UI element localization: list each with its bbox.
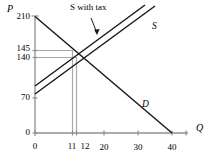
x-tick-label-0: 0 xyxy=(25,142,45,151)
y-tick-label-0: 0 xyxy=(2,128,30,137)
x-tick-label-20: 20 xyxy=(94,143,114,152)
s-with-tax-arrow-head xyxy=(94,29,99,35)
x-tick-label-12: 12 xyxy=(75,142,95,151)
x-tick-label-30: 30 xyxy=(128,143,148,152)
chart-canvas xyxy=(0,0,209,159)
y-tick-label-70: 70 xyxy=(2,93,30,102)
y-tick-label-210: 210 xyxy=(2,12,30,21)
guide-lines xyxy=(35,51,77,134)
axes xyxy=(35,16,188,133)
curve-label-s: S xyxy=(152,22,157,32)
s-with-tax-arrow xyxy=(91,18,100,35)
supply-demand-chart: P Q 210 145 140 70 0 0 11 12 20 30 40 S … xyxy=(0,0,209,159)
demand-curve xyxy=(35,17,172,134)
supply-with-tax-curve xyxy=(35,5,145,86)
x-axis-name: Q xyxy=(196,123,203,133)
y-tick-label-140: 140 xyxy=(2,53,30,62)
x-tick-label-40: 40 xyxy=(162,143,182,152)
curve-label-s-with-tax: S with tax xyxy=(70,3,107,12)
curve-label-d: D xyxy=(142,100,149,110)
